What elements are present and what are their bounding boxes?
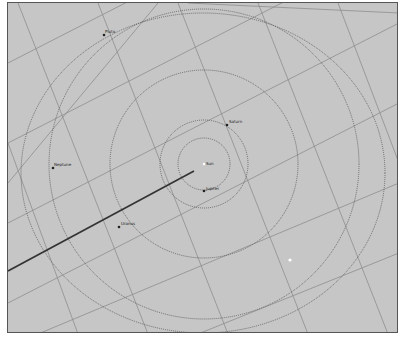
body-dot[interactable] [118, 226, 121, 229]
body-dot[interactable] [203, 190, 206, 193]
white-marker [288, 258, 291, 261]
body-pluto[interactable]: Pluto [103, 29, 116, 36]
body-label: Pluto [105, 29, 116, 34]
body-dot[interactable] [226, 124, 229, 127]
body-label: Saturn [229, 119, 243, 124]
body-neptune[interactable]: Neptune [52, 162, 72, 169]
direction-line [8, 171, 194, 271]
body-uranus[interactable]: Uranus [118, 221, 135, 228]
body-jupiter[interactable]: Jupiter [203, 186, 220, 192]
body-label: Jupiter [205, 186, 219, 191]
body-dot[interactable] [203, 163, 205, 165]
body-saturn[interactable]: Saturn [226, 119, 243, 126]
body-label: Neptune [54, 162, 72, 167]
body-label: Uranus [121, 221, 135, 226]
body-dot[interactable] [52, 167, 55, 170]
orbit-ring [21, 13, 385, 333]
orbit-scene[interactable]: SunJupiterSaturnUranusNeptunePluto [8, 3, 398, 333]
orbit-rings [21, 9, 385, 333]
perspective-grid [8, 3, 398, 333]
solar-system-viewport[interactable]: SunJupiterSaturnUranusNeptunePluto [7, 2, 398, 333]
body-label: Sun [206, 161, 214, 166]
body-sun[interactable]: Sun [203, 161, 214, 166]
body-dot[interactable] [103, 34, 106, 37]
